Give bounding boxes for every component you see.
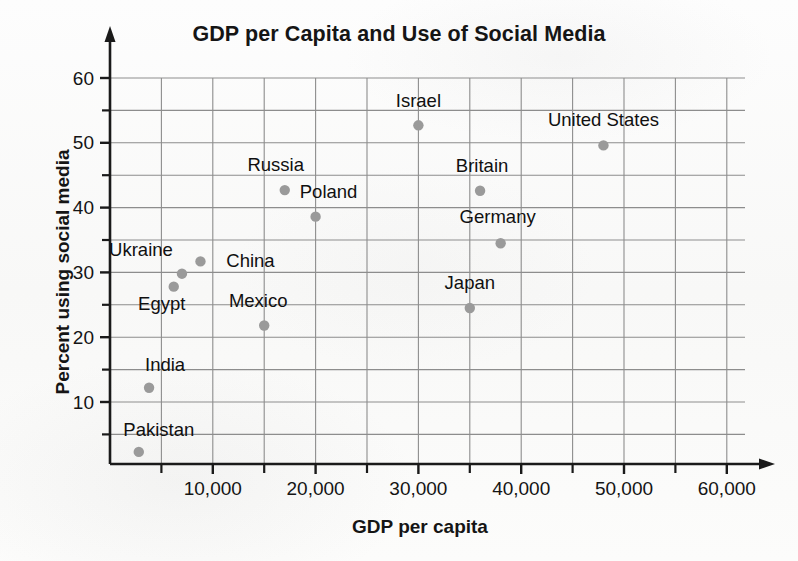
scatter-chart: GDP per Capita and Use of Social Media 1… — [0, 0, 798, 561]
data-points-group — [134, 120, 609, 457]
x-tick-label: 10,000 — [184, 478, 242, 499]
data-point — [134, 447, 144, 457]
data-point — [465, 303, 475, 313]
y-tick-label: 20 — [73, 327, 94, 348]
data-point-label: Pakistan — [123, 419, 194, 440]
axis-tick-marks — [100, 78, 727, 474]
data-point — [598, 140, 608, 150]
data-point — [280, 185, 290, 195]
data-point-label: United States — [548, 109, 659, 130]
plot-area: 10203040506010,00020,00030,00040,00050,0… — [0, 0, 798, 561]
x-tick-label: 40,000 — [492, 478, 550, 499]
data-point-label: Japan — [445, 272, 495, 293]
data-point-label: Russia — [247, 154, 304, 175]
data-point-label: Poland — [300, 181, 358, 202]
y-tick-label: 10 — [73, 392, 94, 413]
data-point — [413, 120, 423, 130]
data-point — [169, 281, 179, 291]
horizontal-gridlines — [110, 78, 745, 434]
data-point-label: Israel — [396, 90, 441, 111]
y-tick-label: 50 — [73, 132, 94, 153]
data-point-label: China — [226, 250, 275, 271]
x-tick-label: 30,000 — [389, 478, 447, 499]
x-tick-label: 20,000 — [287, 478, 345, 499]
data-point — [195, 256, 205, 266]
data-point-label: Germany — [460, 206, 537, 227]
data-point-label: Mexico — [229, 290, 288, 311]
data-point — [475, 186, 485, 196]
data-point-label: India — [145, 354, 186, 375]
data-point — [177, 268, 187, 278]
y-tick-label: 30 — [73, 262, 94, 283]
data-point — [310, 211, 320, 221]
data-point-label: Britain — [456, 155, 508, 176]
y-axis-arrowhead — [105, 26, 116, 42]
x-axis-title: GDP per capita — [110, 516, 730, 538]
x-axis-arrowhead — [759, 459, 775, 470]
data-point-label: Ukraine — [109, 239, 173, 260]
data-point — [144, 383, 154, 393]
x-tick-label: 50,000 — [595, 478, 653, 499]
y-tick-label: 40 — [73, 197, 94, 218]
y-axis-title: Percent using social media — [52, 112, 74, 432]
data-point — [495, 238, 505, 248]
data-point — [259, 320, 269, 330]
data-point-label: Egypt — [138, 293, 185, 314]
x-tick-label: 60,000 — [698, 478, 756, 499]
y-tick-label: 60 — [73, 68, 94, 89]
